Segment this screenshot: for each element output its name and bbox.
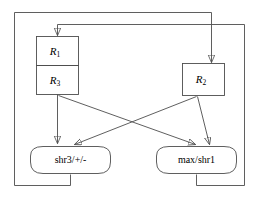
edge-r2-to-maxshr1 <box>198 97 210 145</box>
edge-r2-to-shr3 <box>75 97 197 145</box>
node-shr3-label: shr3/+/- <box>55 154 87 165</box>
node-r1-label: R1 <box>49 45 61 59</box>
edge-r3-to-maxshr1 <box>59 96 196 145</box>
diagram-canvas: R1 R3 R2 shr3/+/- max/shr1 <box>0 0 259 200</box>
node-r2-label: R2 <box>195 73 207 87</box>
node-maxshr1-label: max/shr1 <box>178 154 215 165</box>
block-diagram: R1 R3 R2 shr3/+/- max/shr1 <box>0 0 259 200</box>
node-r3-label: R3 <box>49 74 61 88</box>
